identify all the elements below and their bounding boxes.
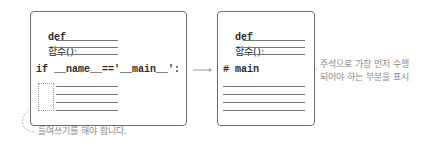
if-main-statement: if __name__=='__main__': bbox=[36, 64, 180, 75]
code-line bbox=[56, 110, 118, 111]
flow-arrowhead-icon bbox=[209, 68, 212, 72]
comment-note-line2: 되어야 하는 부분을 표시 bbox=[320, 71, 409, 84]
indent-placeholder bbox=[38, 83, 54, 111]
code-line bbox=[56, 94, 118, 95]
code-line bbox=[243, 54, 305, 55]
code-line bbox=[223, 110, 305, 111]
code-line bbox=[223, 86, 305, 87]
comment-note-line1: 주석으로 가장 먼저 수행 bbox=[320, 58, 409, 71]
code-line bbox=[56, 86, 118, 87]
code-line bbox=[243, 47, 305, 48]
code-line bbox=[56, 47, 118, 48]
indent-note: 들여쓰기를 해야 합니다. bbox=[38, 125, 127, 138]
comment-note: 주석으로 가장 먼저 수행 되어야 하는 부분을 표시 bbox=[320, 58, 409, 84]
code-line bbox=[223, 94, 305, 95]
code-line bbox=[56, 102, 118, 103]
code-line bbox=[56, 40, 118, 41]
code-line bbox=[243, 40, 305, 41]
code-line bbox=[223, 102, 305, 103]
def-keyword: def bbox=[235, 32, 253, 43]
code-line bbox=[56, 54, 118, 55]
def-keyword: def bbox=[48, 32, 66, 43]
main-comment: # main bbox=[223, 64, 259, 75]
